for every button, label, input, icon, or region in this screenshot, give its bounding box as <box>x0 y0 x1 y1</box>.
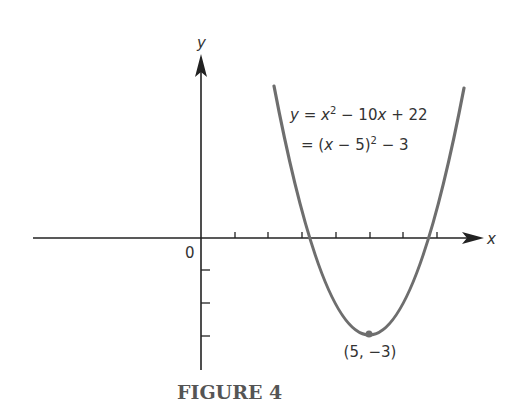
y-ticks <box>201 270 210 336</box>
equation-line-2: = (x − 5)2 − 3 <box>301 135 409 154</box>
vertex-point <box>366 331 373 338</box>
y-axis-label: y <box>196 34 207 52</box>
vertex-label: (5, −3) <box>344 343 397 361</box>
origin-label: 0 <box>185 244 195 262</box>
x-ticks <box>235 232 437 238</box>
parabola-figure: x y 0 (5, −3) y = x2 − 10x + 22 = (x − 5… <box>0 0 520 417</box>
x-axis-label: x <box>486 230 496 248</box>
equation-line-1: y = x2 − 10x + 22 <box>289 105 428 124</box>
figure-caption: FIGURE 4 <box>177 381 282 403</box>
